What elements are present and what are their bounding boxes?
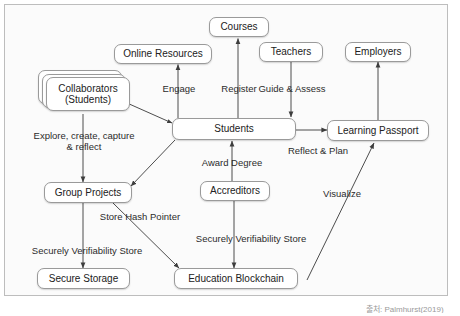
node-online-resources-label: Online Resources (123, 48, 202, 60)
node-secure-storage[interactable]: Secure Storage (37, 268, 130, 289)
node-accreditors[interactable]: Accreditors (200, 181, 270, 201)
edge-label-store-hash-pointer: Store Hash Pointer (85, 211, 195, 222)
edge-label-award-degree: Award Degree (182, 157, 282, 168)
node-education-blockchain-label: Education Blockchain (188, 273, 284, 285)
edge-label-securely-store-right: Securely Verifiability Store (169, 233, 333, 244)
node-students-label: Students (214, 123, 253, 135)
node-collaborators[interactable]: Collaborators (Students) (38, 70, 130, 114)
node-teachers[interactable]: Teachers (259, 42, 323, 62)
edge-label-reflect-plan: Reflect & Plan (277, 145, 359, 156)
source-caption: 출처: Palmhurst(2019) (366, 303, 460, 313)
edge-label-explore-line2: & reflect (10, 141, 158, 152)
node-education-blockchain[interactable]: Education Blockchain (174, 268, 298, 289)
node-accreditors-label: Accreditors (210, 185, 260, 197)
edge-label-guide-assess: Guide & Assess (249, 83, 335, 94)
edge-label-engage: Engage (152, 83, 206, 94)
collaborators-stack-front: Collaborators (Students) (46, 77, 130, 111)
node-group-projects-label: Group Projects (55, 187, 122, 199)
edge-label-explore-line1: Explore, create, capture (10, 130, 158, 141)
node-collaborators-label-line2: (Students) (65, 94, 111, 106)
edge-label-visualize: Visualize (310, 188, 374, 199)
node-courses-label: Courses (220, 21, 257, 33)
node-learning-passport-label: Learning Passport (337, 125, 418, 137)
node-teachers-label: Teachers (271, 46, 312, 58)
node-courses[interactable]: Courses (209, 17, 269, 37)
node-collaborators-label-line1: Collaborators (58, 83, 117, 95)
node-group-projects[interactable]: Group Projects (44, 182, 132, 203)
node-online-resources[interactable]: Online Resources (114, 44, 212, 64)
node-students[interactable]: Students (172, 118, 296, 140)
diagram-canvas: Courses Online Resources Teachers Employ… (0, 0, 460, 316)
edge-label-securely-store-left: Securely Verifiability Store (5, 245, 169, 256)
node-learning-passport[interactable]: Learning Passport (327, 120, 429, 141)
node-secure-storage-label: Secure Storage (49, 273, 119, 285)
node-employers-label: Employers (354, 46, 401, 58)
node-employers[interactable]: Employers (345, 42, 411, 62)
